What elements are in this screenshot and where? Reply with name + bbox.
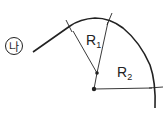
r2-center-point <box>92 87 96 91</box>
r2-label-sub: 2 <box>127 72 132 82</box>
center-connector <box>94 73 97 89</box>
r1-label-sub: 1 <box>96 40 101 50</box>
r1-label-base: R <box>86 32 96 48</box>
r2-radius-line <box>94 88 152 89</box>
r2-label: R2 <box>117 64 132 82</box>
r1-label: R1 <box>86 32 101 50</box>
marker-text: 나 <box>9 41 19 53</box>
r2-label-base: R <box>117 64 127 80</box>
arc-radius-diagram: 나 R1 R2 <box>0 0 167 113</box>
circled-marker: 나 <box>6 38 23 55</box>
